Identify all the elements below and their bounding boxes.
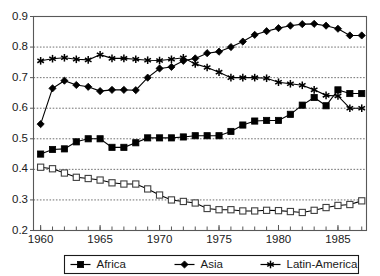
data-point	[311, 94, 317, 100]
data-point	[323, 204, 329, 210]
data-point	[38, 164, 44, 170]
data-point	[168, 63, 175, 70]
data-point	[311, 86, 318, 94]
data-point	[287, 208, 293, 214]
data-point	[263, 28, 270, 35]
data-point	[145, 135, 151, 141]
legend-label: Africa	[97, 258, 127, 270]
data-point	[121, 181, 127, 187]
data-point	[311, 207, 317, 213]
data-point	[97, 177, 103, 183]
legend-label: Asia	[201, 258, 224, 270]
data-point	[346, 32, 353, 39]
data-point	[358, 32, 365, 39]
data-point	[275, 117, 281, 123]
data-point	[228, 207, 234, 213]
data-point	[180, 198, 186, 204]
data-point	[252, 208, 258, 214]
data-point	[204, 133, 210, 139]
x-tick-label: 1970	[147, 233, 173, 245]
y-tick-label: 0.8	[12, 40, 28, 52]
y-tick-label: 0.9	[12, 10, 28, 22]
data-point	[109, 144, 115, 150]
data-point	[275, 208, 281, 214]
data-point	[335, 87, 341, 93]
data-point	[251, 31, 258, 38]
legend: AfricaAsiaLatin-America	[65, 256, 359, 274]
data-point	[156, 135, 162, 141]
data-point	[121, 144, 127, 150]
data-point	[192, 200, 198, 206]
data-point	[85, 136, 91, 142]
data-point	[264, 117, 270, 123]
data-point	[97, 87, 104, 94]
x-tick-label: 1980	[266, 233, 292, 245]
data-point	[239, 38, 246, 45]
y-tick-label: 0.6	[12, 101, 28, 113]
data-point	[216, 133, 222, 139]
data-point	[61, 146, 67, 152]
data-point	[73, 174, 79, 180]
data-point	[37, 121, 44, 128]
data-point	[252, 118, 258, 124]
data-point	[322, 22, 329, 29]
data-point	[49, 166, 55, 172]
y-tick-label: 0.5	[12, 132, 28, 144]
data-point	[168, 135, 174, 141]
data-point	[204, 64, 211, 72]
data-point	[133, 181, 139, 187]
data-series-latin-america	[37, 51, 365, 112]
data-point	[359, 198, 365, 204]
data-series-africa	[38, 87, 365, 157]
data-series-unlabeled-3	[38, 164, 365, 215]
data-point	[334, 25, 341, 32]
data-point	[299, 209, 305, 215]
y-tick-label: 0.3	[12, 193, 28, 205]
data-point	[108, 86, 115, 93]
data-point	[359, 90, 365, 96]
data-point	[216, 68, 223, 76]
data-point	[275, 25, 282, 32]
data-point	[49, 85, 56, 92]
data-point	[323, 103, 329, 109]
y-tick-label: 0.7	[12, 71, 28, 83]
data-point	[109, 180, 115, 186]
data-point	[311, 20, 318, 27]
y-tick-label: 0.2	[12, 224, 28, 236]
legend-marker-filled-square	[77, 261, 83, 267]
data-point	[287, 111, 293, 117]
data-point	[264, 207, 270, 213]
data-series-group	[37, 20, 365, 215]
grid-lines	[34, 47, 367, 200]
data-point	[204, 50, 211, 57]
data-point	[204, 205, 210, 211]
data-series-asia	[37, 20, 365, 127]
data-point	[85, 83, 92, 90]
data-point	[287, 22, 294, 29]
axes	[30, 17, 367, 231]
data-point	[228, 128, 234, 134]
data-point	[216, 207, 222, 213]
data-point	[168, 197, 174, 203]
data-point	[145, 186, 151, 192]
data-point	[347, 90, 353, 96]
x-tick-label: 1960	[28, 233, 54, 245]
data-point	[156, 192, 162, 198]
data-point	[215, 48, 222, 55]
data-point	[97, 136, 103, 142]
data-point	[240, 208, 246, 214]
x-tick-label: 1965	[87, 233, 113, 245]
data-point	[240, 122, 246, 128]
data-point	[133, 140, 139, 146]
data-point	[299, 21, 306, 28]
data-point	[97, 51, 104, 59]
data-point	[85, 175, 91, 181]
data-point	[49, 146, 55, 152]
series-line	[41, 167, 362, 212]
data-point	[347, 201, 353, 207]
data-point	[192, 60, 199, 68]
data-point	[61, 170, 67, 176]
x-tick-label: 1975	[206, 233, 232, 245]
chart-canvas: 0.20.30.40.50.60.70.80.91960196519701975…	[0, 0, 380, 276]
x-tick-label: 1985	[325, 233, 351, 245]
